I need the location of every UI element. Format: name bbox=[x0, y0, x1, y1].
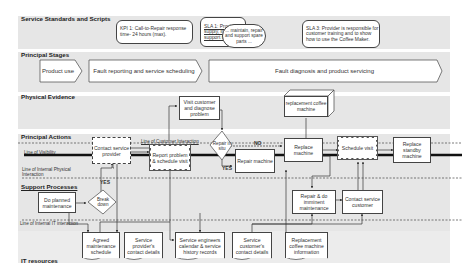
no-label-repair: NO bbox=[254, 141, 262, 146]
yes-label-repair: YES bbox=[222, 166, 232, 171]
it-engineers-calendar: Service engineers calendar & service his… bbox=[175, 232, 225, 258]
yes-label-breakdown: YES bbox=[100, 180, 110, 185]
action-repair-machine: Repair machine bbox=[235, 149, 275, 173]
kpi1-card: KPI 1: Call-to-Repair response time- 24 … bbox=[116, 20, 193, 44]
it-provider-contact: Service provider's contact details bbox=[124, 232, 163, 258]
action-report-problem: Report problem & schedule visit bbox=[149, 144, 191, 171]
it-agreed-schedule: Agreed maintenance schedule bbox=[82, 232, 120, 258]
sla3-card: SLA 3: Provider is responsible for custo… bbox=[302, 20, 380, 48]
evidence-visit-customer: Visit customer and diagnose problem bbox=[179, 96, 220, 120]
action-contact-provider: Contact service provider bbox=[92, 137, 131, 164]
sla1-callout: ... maintain, repair and support spare p… bbox=[222, 24, 266, 48]
support-contact-customer: Contact service customer bbox=[342, 190, 383, 214]
action-replace-standby: Replace standby machine bbox=[393, 137, 431, 163]
support-repair-imminent: Repair & do imminent maintenance bbox=[292, 190, 336, 214]
evidence-replacement-machine: replacement coffee machine bbox=[284, 96, 328, 117]
support-breakdown: Break down bbox=[92, 196, 114, 208]
it-customer-contact: Service customer's contact details bbox=[232, 232, 272, 258]
stage-fault-reporting: Fault reporting and service scheduling bbox=[92, 60, 196, 82]
stage-fault-diagnosis: Fault diagnosis and product servicing bbox=[212, 60, 437, 82]
action-repair-decision: Repair in situ bbox=[212, 139, 232, 153]
action-schedule-visit: Schedule visit bbox=[337, 136, 378, 160]
it-replacement-info: Replacement coffee machine information bbox=[285, 232, 328, 258]
support-planned-maintenance: Do planned maintenance bbox=[38, 192, 76, 213]
stage-product-use: Product use bbox=[40, 60, 76, 82]
action-replace-machine: Replace machine bbox=[284, 138, 323, 162]
